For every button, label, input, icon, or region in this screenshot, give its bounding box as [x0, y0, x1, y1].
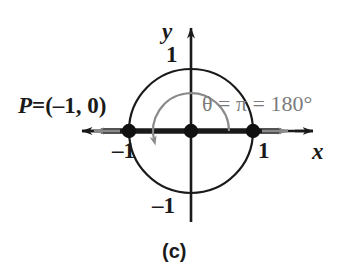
- point-negative-one: [122, 124, 136, 138]
- point-p-label: P=(–1, 0): [18, 94, 107, 117]
- x-tick-label-one: 1: [258, 139, 270, 162]
- point-p-coordinates: (–1, 0): [45, 93, 106, 118]
- point-p-equals: =: [32, 93, 45, 118]
- unit-circle-figure: y x 1 –1 –1 1 P=(–1, 0) θ = π = 180° (c): [0, 0, 350, 271]
- angle-annotation-label: θ = π = 180°: [202, 93, 312, 115]
- y-tick-label-one: 1: [166, 43, 178, 66]
- x-tick-label-negative-one: –1: [112, 139, 135, 162]
- y-axis-label: y: [162, 20, 172, 43]
- x-axis-label: x: [312, 140, 324, 163]
- point-p-name: P: [18, 93, 32, 118]
- unit-circle-diagram: [0, 0, 350, 271]
- figure-caption: (c): [162, 241, 186, 261]
- point-positive-one: [246, 124, 260, 138]
- y-tick-label-negative-one: –1: [152, 194, 175, 217]
- point-origin: [184, 124, 198, 138]
